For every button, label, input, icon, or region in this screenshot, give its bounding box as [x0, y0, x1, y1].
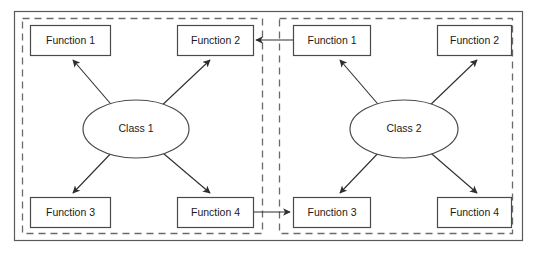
edge-class2-to-function3	[340, 148, 383, 193]
c1-function-4-label: Function 4	[191, 206, 240, 218]
edge-class2-to-function1	[340, 60, 383, 110]
c2-function-2-label: Function 2	[450, 34, 499, 46]
c1-function-2-label: Function 2	[191, 34, 240, 46]
edge-class2-to-function2	[425, 60, 477, 110]
edge-class1-to-function2	[157, 60, 210, 110]
class-2-label: Class 2	[386, 122, 421, 134]
c2-function-1-label: Function 1	[307, 34, 356, 46]
c1-function-1-label: Function 1	[46, 34, 95, 46]
class-function-diagram: Function 1 Function 2 Function 3 Functio…	[0, 0, 536, 253]
c1-function-3-label: Function 3	[46, 206, 95, 218]
diagram-canvas: Function 1 Function 2 Function 3 Functio…	[0, 0, 536, 253]
class-1-label: Class 1	[118, 122, 153, 134]
edge-class1-to-function4	[157, 148, 210, 193]
c2-function-3-label: Function 3	[307, 206, 356, 218]
edge-class2-to-function4	[425, 148, 477, 193]
edge-class1-to-function1	[73, 60, 116, 110]
c2-function-4-label: Function 4	[450, 206, 499, 218]
